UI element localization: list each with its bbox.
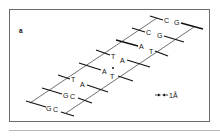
base-pair-8: G C [26, 101, 74, 116]
base-pair-1: C G [150, 16, 203, 29]
arrow-right-icon [158, 94, 161, 97]
svg-text:A: A [80, 81, 85, 88]
base-pair-7: G C [42, 88, 92, 103]
svg-text:T: T [111, 53, 116, 60]
base-left: C [164, 17, 169, 24]
base-pair-5: A T [79, 63, 133, 81]
arrow-left-icon [162, 94, 165, 97]
dna-ladder-diagram: C G C G A T T A A T T A G C [0, 0, 220, 137]
panel-label: a [19, 27, 23, 34]
marker-dot [112, 67, 114, 69]
base-pair-3: A T [116, 40, 168, 56]
base-pair-2: C G [132, 28, 184, 42]
svg-text:T: T [71, 76, 76, 83]
svg-text:A: A [102, 68, 107, 75]
base-right: G [174, 19, 179, 26]
scale-bar: 1Å [155, 91, 178, 99]
svg-text:T: T [149, 48, 154, 55]
base-pair-6: T A [58, 75, 108, 92]
svg-text:G: G [63, 92, 68, 99]
svg-text:C: C [53, 106, 58, 113]
svg-text:G: G [46, 105, 51, 112]
svg-text:C: C [70, 93, 75, 100]
svg-text:G: G [157, 32, 162, 39]
svg-text:A: A [139, 43, 144, 50]
scale-label: 1Å [169, 91, 178, 99]
base-pair-4: T A [96, 50, 150, 67]
svg-text:T: T [110, 73, 115, 80]
svg-text:C: C [146, 29, 151, 36]
svg-text:A: A [120, 57, 125, 64]
